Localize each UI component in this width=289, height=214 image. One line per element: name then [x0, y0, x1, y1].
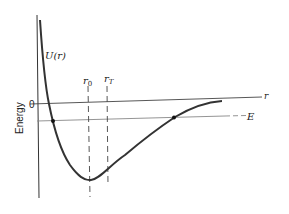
energy-level-label: E — [246, 111, 255, 122]
energy-axis — [37, 15, 39, 198]
y-axis-label: Energy — [14, 102, 25, 134]
rT-label: rT — [104, 73, 115, 86]
r0-label-sub: 0 — [88, 80, 92, 88]
turning-point-right — [172, 116, 176, 120]
zero-label: 0 — [29, 99, 35, 110]
energy-level-dashed — [225, 116, 246, 117]
potential-curve — [40, 20, 222, 180]
curve-label: U(r) — [45, 50, 66, 61]
r0-label: r0 — [83, 75, 92, 88]
turning-point-left — [51, 119, 55, 123]
rT-label-sub: T — [109, 78, 115, 86]
r-axis — [30, 97, 262, 104]
rT-marker-line — [107, 86, 108, 186]
potential-energy-diagram: U(r) r0 rT 0 r E Energy — [0, 0, 289, 214]
r-axis-label: r — [264, 91, 269, 101]
energy-level-line — [37, 116, 225, 121]
